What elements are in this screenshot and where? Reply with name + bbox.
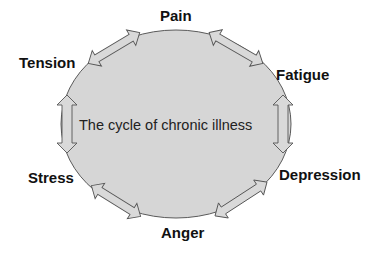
node-label-pain: Pain <box>160 7 192 24</box>
node-label-depression: Depression <box>279 166 361 183</box>
node-label-anger: Anger <box>161 224 205 241</box>
node-label-stress: Stress <box>28 169 74 186</box>
chronic-illness-cycle-diagram: The cycle of chronic illness Pain Fatigu… <box>0 0 381 255</box>
node-label-fatigue: Fatigue <box>276 66 329 83</box>
center-label: The cycle of chronic illness <box>79 117 252 133</box>
node-label-tension: Tension <box>19 54 75 71</box>
